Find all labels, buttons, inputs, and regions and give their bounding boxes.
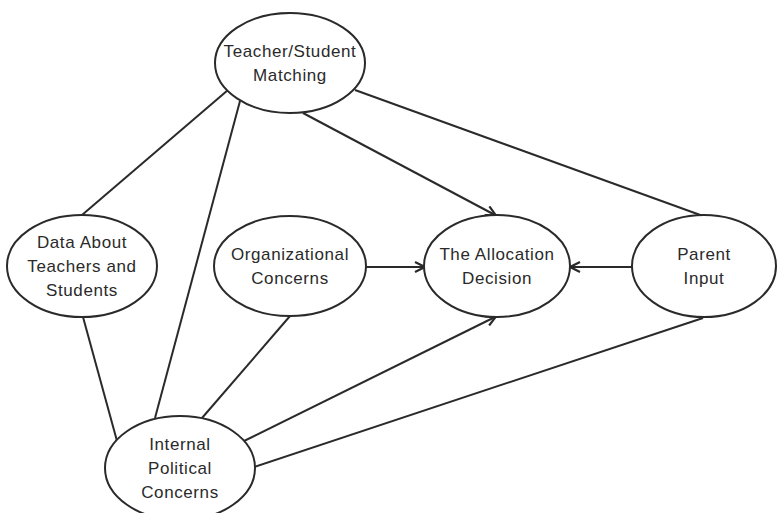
edge-organizational-concerns-to-internal-political-concerns <box>202 316 290 418</box>
allocation-concept-diagram: Teacher/StudentMatchingData AboutTeacher… <box>0 0 783 513</box>
node-teacher-student-matching: Teacher/StudentMatching <box>215 13 365 113</box>
node-label-organizational-concerns-line-2: Concerns <box>251 269 329 288</box>
node-label-teacher-student-matching-line-2: Matching <box>253 66 327 85</box>
node-label-internal-political-concerns-line-2: Political <box>148 459 212 478</box>
node-internal-political-concerns: InternalPoliticalConcerns <box>105 416 255 513</box>
node-allocation-decision: The AllocationDecision <box>424 215 570 317</box>
node-label-parent-input-line-2: Input <box>684 269 725 288</box>
node-label-allocation-decision-line-2: Decision <box>462 269 532 288</box>
node-label-allocation-decision-line-1: The Allocation <box>439 245 554 264</box>
edge-teacher-student-matching-to-parent-input <box>355 90 703 216</box>
node-label-data-about-teachers-students-line-2: Teachers and <box>27 257 136 276</box>
node-label-data-about-teachers-students-line-3: Students <box>46 281 118 300</box>
node-label-internal-political-concerns-line-1: Internal <box>149 435 211 454</box>
ellipse-teacher-student-matching <box>215 13 365 113</box>
node-label-data-about-teachers-students-line-1: Data About <box>37 233 127 252</box>
node-label-teacher-student-matching-line-1: Teacher/Student <box>224 42 357 61</box>
node-parent-input: ParentInput <box>632 215 776 317</box>
edge-internal-political-concerns-to-parent-input <box>254 318 703 467</box>
node-data-about-teachers-students: Data AboutTeachers andStudents <box>7 215 157 317</box>
node-organizational-concerns: OrganizationalConcerns <box>214 216 366 316</box>
edge-data-about-teachers-students-to-internal-political-concerns <box>83 317 117 441</box>
ellipse-parent-input <box>632 215 776 317</box>
edge-teacher-student-matching-to-data-about-teachers-students <box>82 90 228 215</box>
nodes-layer: Teacher/StudentMatchingData AboutTeacher… <box>7 13 776 513</box>
node-label-organizational-concerns-line-1: Organizational <box>231 245 349 264</box>
node-label-internal-political-concerns-line-3: Concerns <box>141 483 219 502</box>
node-label-parent-input-line-1: Parent <box>677 245 731 264</box>
edge-internal-political-concerns-to-allocation-decision <box>242 317 495 442</box>
ellipse-allocation-decision <box>424 215 570 317</box>
ellipse-organizational-concerns <box>214 216 366 316</box>
edges-layer <box>82 90 703 467</box>
edge-teacher-student-matching-to-allocation-decision <box>303 113 495 215</box>
